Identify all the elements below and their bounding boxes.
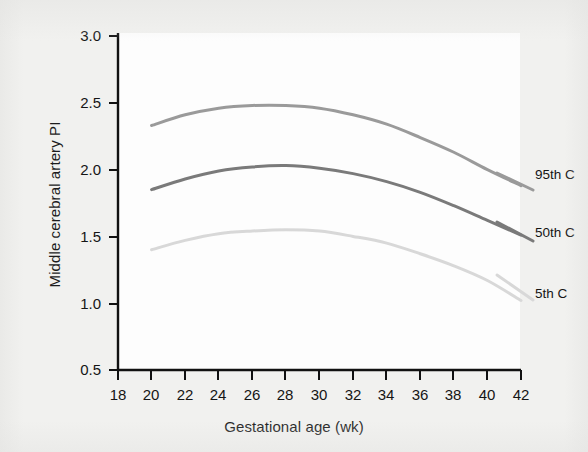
x-axis-title: Gestational age (wk)	[0, 418, 588, 435]
legend-label-95th: 95th C	[535, 167, 575, 182]
plot-background	[118, 33, 520, 370]
y-tick-label-3-0: 3.0	[55, 27, 101, 44]
x-tick-label-42: 42	[501, 386, 541, 403]
y-tick-label-0-5: 0.5	[55, 361, 101, 378]
legend-label-5th: 5th C	[535, 286, 567, 301]
chart-plot-area	[0, 0, 588, 452]
legend-label-50th: 50th C	[535, 225, 575, 240]
y-axis-ticks	[109, 36, 118, 370]
x-axis-ticks	[118, 370, 521, 380]
y-axis-title: Middle cerebral artery PI	[46, 55, 63, 355]
figure-container: 3.0 2.5 2.0 1.5 1.0 0.5 18 20 22 24 26 2…	[0, 0, 588, 452]
